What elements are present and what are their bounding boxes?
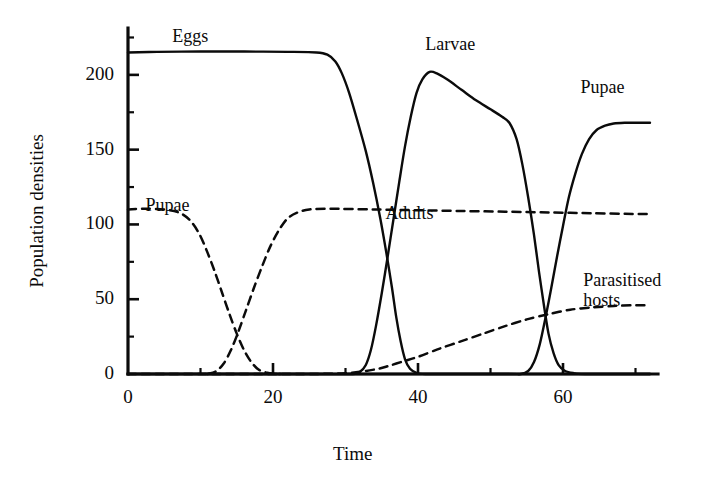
y-tick-label: 200 <box>68 63 114 85</box>
curve-label-adults: Adults <box>385 204 433 223</box>
curve-adults <box>128 209 280 374</box>
y-tick-label: 50 <box>68 287 114 309</box>
population-density-figure: Population densities Time 05010015020002… <box>0 0 708 484</box>
x-tick-label: 0 <box>108 386 148 408</box>
y-axis-title: Population densities <box>26 116 48 306</box>
curve-label-parasitised-hosts: Parasitisedhosts <box>583 271 661 310</box>
curve-label-larvae: Larvae <box>425 35 475 54</box>
chart-axes <box>128 28 658 374</box>
curve-label-pupae-right: Pupae <box>580 78 624 97</box>
curve-label-eggs: Eggs <box>172 27 208 46</box>
x-tick-label: 20 <box>253 386 293 408</box>
curve-parasitised-hosts <box>128 305 650 374</box>
y-tick-label: 150 <box>68 138 114 160</box>
y-tick-label: 0 <box>68 362 114 384</box>
x-tick-label: 40 <box>398 386 438 408</box>
curve-label-pupae-left: Pupae <box>145 196 189 215</box>
x-axis-title: Time <box>333 443 372 465</box>
x-tick-label: 60 <box>543 386 583 408</box>
y-tick-label: 100 <box>68 212 114 234</box>
